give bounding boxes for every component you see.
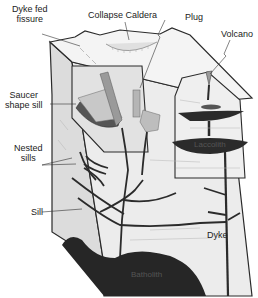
laccolith-feeder <box>208 85 209 100</box>
label-volcano: Volcano <box>221 29 253 39</box>
label-sill: Sill <box>31 207 43 217</box>
label-nested-sills: Nested sills <box>14 143 43 163</box>
plug <box>133 90 140 117</box>
label-dyke: Dyke <box>207 230 228 240</box>
label-batholith: Batholith <box>131 270 162 279</box>
label-collapse-caldera: Collapse Caldera <box>88 10 157 20</box>
label-saucer-shape-sill: Saucer shape sill <box>5 90 43 110</box>
label-dyke-fed-fissure: Dyke fed fissure <box>12 4 48 24</box>
small-sill <box>201 105 221 110</box>
label-plug: Plug <box>185 12 203 22</box>
label-laccolith: Laccolith <box>194 140 226 149</box>
